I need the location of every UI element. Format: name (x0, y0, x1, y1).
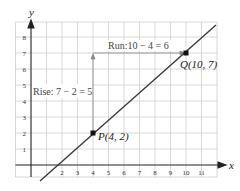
y-tick: 1 (23, 146, 27, 154)
rise-arrowhead-icon (91, 54, 95, 59)
rise-annotation: Rise: 7 − 2 = 5 (33, 86, 92, 97)
y-tick-labels: 1 2 3 4 5 6 7 8 (23, 34, 27, 154)
point-p-label: P(4, 2) (97, 130, 129, 143)
x-tick: 6 (122, 169, 126, 177)
x-tick: 5 (107, 169, 111, 177)
y-tick: 5 (23, 82, 27, 90)
x-axis-arrow-icon (218, 162, 226, 168)
y-tick: 3 (23, 114, 27, 122)
y-tick: 4 (23, 98, 27, 106)
x-tick: 8 (153, 169, 157, 177)
y-axis-label: y (28, 6, 34, 18)
point-q (184, 51, 189, 56)
point-p (91, 131, 96, 136)
x-tick: 7 (138, 169, 142, 177)
y-tick: 6 (23, 66, 27, 74)
coordinate-plane: x y 2 3 4 5 6 7 8 9 10 11 1 2 3 4 5 6 7 … (0, 0, 240, 191)
y-tick: 7 (23, 50, 27, 58)
x-tick: 11 (198, 169, 205, 177)
y-tick: 2 (23, 130, 27, 138)
x-tick-labels: 2 3 4 5 6 7 8 9 10 11 (60, 169, 205, 177)
x-tick: 4 (91, 169, 95, 177)
y-tick: 8 (23, 34, 27, 42)
point-q-label: Q(10, 7) (180, 58, 218, 71)
y-axis-arrow-icon (28, 20, 34, 28)
x-tick: 3 (76, 169, 80, 177)
x-tick: 9 (169, 169, 173, 177)
x-tick: 2 (60, 169, 64, 177)
x-axis-label: x (228, 159, 234, 171)
run-annotation: Run:10 − 4 = 6 (108, 40, 169, 51)
x-tick: 10 (183, 169, 191, 177)
